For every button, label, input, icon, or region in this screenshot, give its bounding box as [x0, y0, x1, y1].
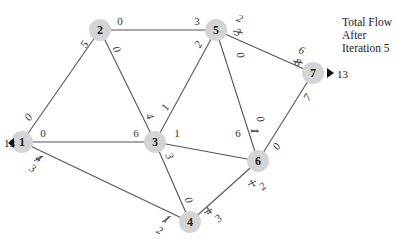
node-3: 3 — [144, 131, 166, 153]
edge-labels: 0 5 0 6 4 3 1 2 0 3 0 4 1 2 1 6 3 0 2 — [22, 11, 314, 236]
edge-1-4-label-from: 3 — [27, 161, 39, 175]
edge-3-4-label-to: 0 — [182, 195, 195, 205]
edge-1-4-label-to: 2 — [155, 223, 166, 236]
sink-flow: 13 — [327, 68, 349, 80]
edge-5-6-label-from: 0 — [234, 51, 247, 60]
edge-5-6 — [216, 30, 258, 161]
edge-3-5 — [155, 30, 216, 142]
node-5-label: 5 — [213, 23, 219, 37]
edge-6-4-label-to-group: 4 3 — [202, 204, 224, 225]
node-2-label: 2 — [97, 23, 103, 37]
edge-3-5-label-to: 2 — [191, 38, 204, 49]
edge-1-3-label-from: 0 — [40, 127, 46, 139]
edges — [22, 30, 313, 222]
edge-3-6-label-from: 1 — [174, 127, 180, 139]
edge-3-4-label-from: 3 — [163, 150, 177, 161]
edge-5-7-label-from-group: 2 3 — [232, 11, 245, 38]
node-4-label: 4 — [187, 215, 193, 229]
caption-line-3: Iteration 5 — [342, 42, 392, 55]
edge-2-3 — [100, 30, 155, 142]
caption-line-1: Total Flow — [342, 16, 392, 29]
edge-5-7-label-to-group: 6 8 — [293, 43, 307, 68]
edge-3-5-label-from: 1 — [158, 102, 171, 113]
edge-2-5-label-to: 3 — [194, 15, 200, 27]
edge-5-6-label-to-group: 0 1 — [248, 115, 267, 136]
edge-5-6-label-to: 0 — [254, 115, 267, 124]
edge-6-7-label-from: 0 — [269, 140, 282, 151]
nodes: 1 2 3 4 5 6 7 — [11, 19, 324, 233]
edge-1-4 — [22, 142, 190, 222]
edge-2-5-label-from: 0 — [117, 15, 123, 27]
edge-1-2-label-from: 0 — [22, 111, 35, 123]
source-flow: 13 — [4, 137, 16, 149]
node-7: 7 — [302, 62, 324, 84]
node-1-label: 1 — [19, 135, 25, 149]
edge-6-4 — [190, 161, 258, 222]
node-6: 6 — [247, 150, 269, 172]
node-3-label: 3 — [152, 135, 158, 149]
edge-6-7-label-to: 7 — [300, 91, 313, 102]
edge-6-4-label-to: 3 — [211, 211, 224, 225]
node-7-label: 7 — [310, 66, 316, 80]
sink-arrow-icon — [327, 68, 334, 78]
edge-2-3-label-to: 4 — [143, 111, 156, 122]
edge-1-2-label-to: 5 — [78, 38, 91, 50]
edge-6-4-label-from-group: 1 2 — [246, 177, 268, 193]
edge-1-3-label-to: 6 — [133, 127, 139, 139]
edge-3-6-label-to: 6 — [235, 127, 241, 139]
edge-1-4-label-from-group: 4 3 — [27, 151, 45, 174]
edge-5-7-label-from: 2 — [235, 11, 245, 24]
sink-flow-value: 13 — [337, 68, 349, 80]
edge-2-3-label-from: 0 — [110, 44, 123, 55]
caption-line-2: After — [342, 29, 392, 42]
total-flow-caption: Total Flow After Iteration 5 — [342, 16, 392, 55]
edge-1-4-label-to-group: 1 2 — [155, 212, 173, 236]
node-6-label: 6 — [255, 154, 261, 168]
edge-6-4-label-from: 2 — [256, 179, 268, 192]
node-2: 2 — [89, 19, 111, 41]
node-4: 4 — [179, 211, 201, 233]
node-5: 5 — [205, 19, 227, 41]
